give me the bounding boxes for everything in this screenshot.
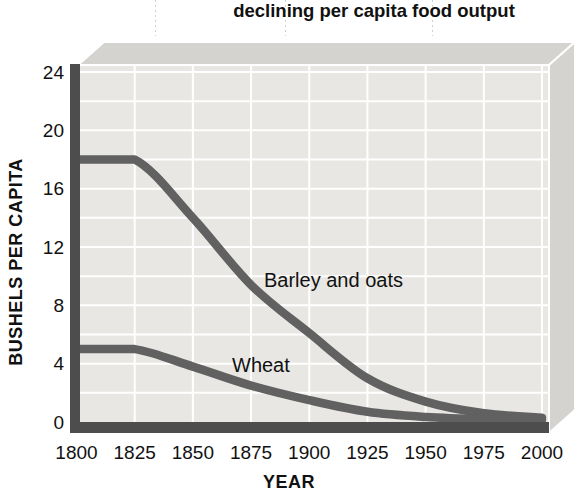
chart-3d-top-face [78, 42, 575, 65]
x-tick-label: 1950 [404, 442, 446, 463]
x-axis-bar [70, 422, 549, 433]
y-tick-label: 20 [43, 120, 64, 141]
series-label-wheat: Wheat [232, 354, 290, 376]
x-tick-label: 1975 [463, 442, 505, 463]
x-tick-label: 1900 [288, 442, 330, 463]
y-tick-label: 12 [43, 237, 64, 258]
x-tick-label: 1800 [55, 442, 97, 463]
x-tick-label: 1875 [230, 442, 272, 463]
y-tick-label: 4 [53, 353, 64, 374]
chart-figure: declining per capita food output Barley … [0, 0, 576, 492]
y-tick-label: 16 [43, 178, 64, 199]
y-axis-bar [70, 64, 80, 433]
y-tick-label: 8 [53, 295, 64, 316]
y-axis-title: BUSHELS PER CAPITA [6, 158, 26, 366]
x-tick-label: 1825 [114, 442, 156, 463]
chart-title: declining per capita food output [233, 0, 515, 21]
x-tick-label: 2000 [521, 442, 563, 463]
x-tick-label: 1850 [172, 442, 214, 463]
series-label-barley-and-oats: Barley and oats [264, 269, 403, 291]
x-tick-label: 1925 [346, 442, 388, 463]
y-tick-label: 0 [53, 412, 64, 433]
chart-3d-right-face [549, 42, 575, 433]
y-tick-label: 24 [43, 62, 65, 83]
x-axis-tick-labels: 180018251850187519001925195019752000 [55, 442, 563, 463]
chart-canvas: declining per capita food output Barley … [0, 0, 576, 492]
y-axis-tick-labels: 04812162024 [43, 62, 65, 433]
x-axis-title: YEAR [263, 472, 315, 492]
plot-area [78, 65, 549, 433]
